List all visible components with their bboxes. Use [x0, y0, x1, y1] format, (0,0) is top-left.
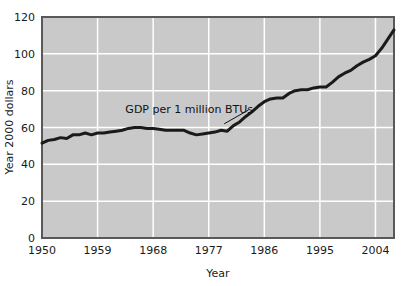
- y-tick-label: 20: [21, 195, 35, 208]
- annotation-label: GDP per 1 million BTUs: [125, 103, 253, 116]
- x-tick-label: 1986: [250, 244, 278, 257]
- y-tick-label: 120: [14, 11, 35, 24]
- x-tick-label: 2004: [361, 244, 389, 257]
- y-tick-label: 40: [21, 158, 35, 171]
- y-tick-label: 100: [14, 48, 35, 61]
- chart-figure: 020406080100120 195019591968197719861995…: [0, 0, 406, 286]
- x-tick-label: 1977: [195, 244, 223, 257]
- y-axis-title: Year 2000 dollars: [3, 79, 16, 175]
- x-tick-label: 1959: [84, 244, 112, 257]
- x-tick-label: 1995: [306, 244, 334, 257]
- x-tick-label: 1968: [139, 244, 167, 257]
- x-tick-label: 1950: [28, 244, 56, 257]
- y-tick-label: 60: [21, 122, 35, 135]
- x-axis-title: Year: [205, 267, 230, 280]
- gdp-per-btu-line-chart: 020406080100120 195019591968197719861995…: [0, 0, 406, 286]
- y-tick-label: 80: [21, 85, 35, 98]
